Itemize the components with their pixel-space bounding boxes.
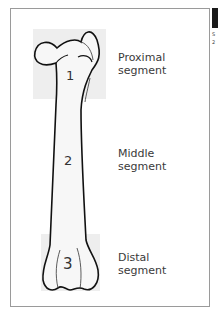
distal-label: Distal segment <box>118 251 166 277</box>
segment-number-1: 1 <box>66 68 74 83</box>
segment-number-2: 2 <box>64 153 72 168</box>
proximal-label: Proximal segment <box>118 51 166 77</box>
segment-number-3: 3 <box>63 255 73 273</box>
femur-diagram <box>0 0 218 310</box>
clipped-heading-block <box>212 8 218 28</box>
clipped-side-text-1: S <box>212 31 215 37</box>
clipped-side-text-2: 2 <box>212 39 215 45</box>
middle-label: Middle segment <box>118 147 166 173</box>
